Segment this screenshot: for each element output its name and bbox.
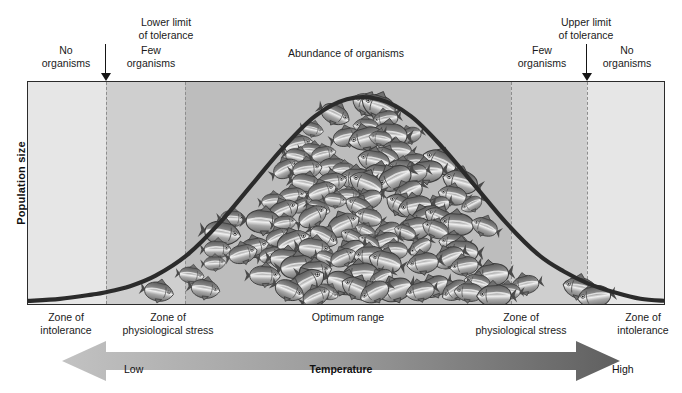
tolerance-curve-plot [27,81,665,305]
no-organisms-left-label: No organisms [27,44,105,69]
few-organisms-right-label: Few organisms [503,44,581,69]
few-organisms-right-line2: organisms [503,57,581,70]
no-organisms-left-line1: No [27,44,105,57]
no-organisms-right-line1: No [588,44,666,57]
zone-intolerance-right-line2: intolerance [603,324,682,337]
zone-stress-right-line1: Zone of [443,311,599,324]
few-organisms-left-line2: organisms [112,57,190,70]
few-organisms-left-label: Few organisms [112,44,190,69]
zone-optimum-range-label: Optimum range [288,311,408,324]
lower-limit-arrow-icon [100,44,112,81]
y-axis-label: Population size [15,123,27,243]
lower-limit-line2: of tolerance [110,29,222,42]
few-organisms-left-line1: Few [112,44,190,57]
x-axis-label: Temperature [0,363,682,375]
zone-stress-right-label: Zone of physiological stress [443,311,599,336]
lower-limit-line1: Lower limit [110,16,222,29]
zone-stress-right-line2: physiological stress [443,324,599,337]
zone-stress-left-line1: Zone of [90,311,246,324]
zone-intolerance-right-line1: Zone of [603,311,682,324]
upper-limit-line2: of tolerance [530,29,642,42]
zone-stress-left-label: Zone of physiological stress [90,311,246,336]
no-organisms-right-label: No organisms [588,44,666,69]
population-bell-curve [28,82,665,305]
no-organisms-right-line2: organisms [588,57,666,70]
upper-limit-of-tolerance-label: Upper limit of tolerance [530,16,642,41]
x-axis-high-label: High [612,363,634,375]
abundance-of-organisms-label: Abundance of organisms [246,47,446,60]
zone-stress-left-line2: physiological stress [90,324,246,337]
upper-limit-line1: Upper limit [530,16,642,29]
zone-intolerance-right-label: Zone of intolerance [603,311,682,336]
no-organisms-left-line2: organisms [27,57,105,70]
few-organisms-right-line1: Few [503,44,581,57]
lower-limit-of-tolerance-label: Lower limit of tolerance [110,16,222,41]
